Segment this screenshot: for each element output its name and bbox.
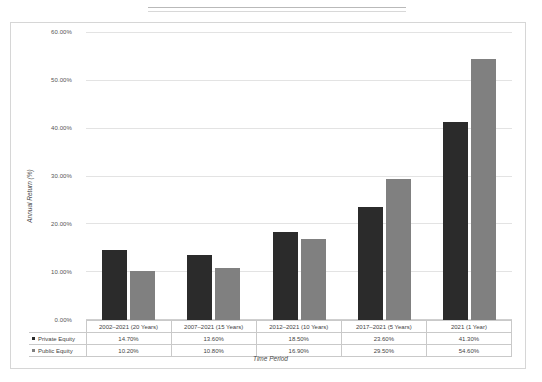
table-cell-private-equity: 41.30% xyxy=(426,333,511,345)
bar-private-equity[interactable] xyxy=(273,232,298,320)
plot-region: 0.00%10.00%20.00%30.00%40.00%50.00%60.00… xyxy=(76,33,512,320)
bar-public-equity[interactable] xyxy=(215,268,240,320)
y-axis-title: Annual Return (%) xyxy=(26,169,33,222)
table-row-private-equity: Private Equity 14.70%13.60%18.50%23.60%4… xyxy=(29,333,512,345)
table-row-categories: 2002–2021 (20 Years)2007–2021 (15 Years)… xyxy=(29,321,512,333)
y-axis-tick-label: 40.00% xyxy=(51,125,72,131)
y-axis-tick-label: 60.00% xyxy=(51,29,72,35)
bar-public-equity[interactable] xyxy=(386,179,411,320)
data-table: 2002–2021 (20 Years)2007–2021 (15 Years)… xyxy=(29,320,512,357)
table-cell-private-equity: 14.70% xyxy=(86,333,171,345)
bar-private-equity[interactable] xyxy=(358,207,383,320)
y-axis-tick-label: 20.00% xyxy=(51,221,72,227)
bar-group xyxy=(86,33,171,320)
table-header-category: 2002–2021 (20 Years) xyxy=(86,321,171,333)
y-axis-tick-label: 30.00% xyxy=(51,173,72,179)
bar-public-equity[interactable] xyxy=(471,59,496,320)
y-axis-tick-label: 10.00% xyxy=(51,269,72,275)
bar-private-equity[interactable] xyxy=(187,255,212,320)
bar-private-equity[interactable] xyxy=(443,122,468,320)
bar-group xyxy=(427,33,512,320)
table-cell-private-equity: 23.60% xyxy=(341,333,426,345)
title-underline-lower xyxy=(148,11,406,12)
bars-layer xyxy=(86,33,512,320)
legend-item-private-equity[interactable]: Private Equity xyxy=(29,333,86,345)
legend-swatch-private-equity xyxy=(32,337,35,340)
table-cell-private-equity: 18.50% xyxy=(256,333,341,345)
table-header-category: 2012–2021 (10 Years) xyxy=(256,321,341,333)
data-table-body: 2002–2021 (20 Years)2007–2021 (15 Years)… xyxy=(29,321,512,357)
bar-group xyxy=(171,33,256,320)
table-corner-cell xyxy=(29,321,86,333)
chart-frame: Annual Return (%) 0.00%10.00%20.00%30.00… xyxy=(10,22,526,369)
table-header-category: 2021 (1 Year) xyxy=(426,321,511,333)
bar-private-equity[interactable] xyxy=(102,250,127,320)
bar-group xyxy=(256,33,341,320)
legend-label-private-equity: Private Equity xyxy=(38,336,75,342)
legend-swatch-public-equity xyxy=(32,349,35,352)
bar-group xyxy=(342,33,427,320)
table-cell-private-equity: 13.60% xyxy=(171,333,256,345)
title-underline-upper xyxy=(148,7,406,8)
table-header-category: 2007–2021 (15 Years) xyxy=(171,321,256,333)
table-header-category: 2017–2021 (5 Years) xyxy=(341,321,426,333)
bar-public-equity[interactable] xyxy=(301,239,326,320)
bar-public-equity[interactable] xyxy=(130,271,155,320)
x-axis-title: Time Period xyxy=(29,355,512,362)
y-axis-tick-label: 50.00% xyxy=(51,77,72,83)
legend-label-public-equity: Public Equity xyxy=(38,348,73,354)
